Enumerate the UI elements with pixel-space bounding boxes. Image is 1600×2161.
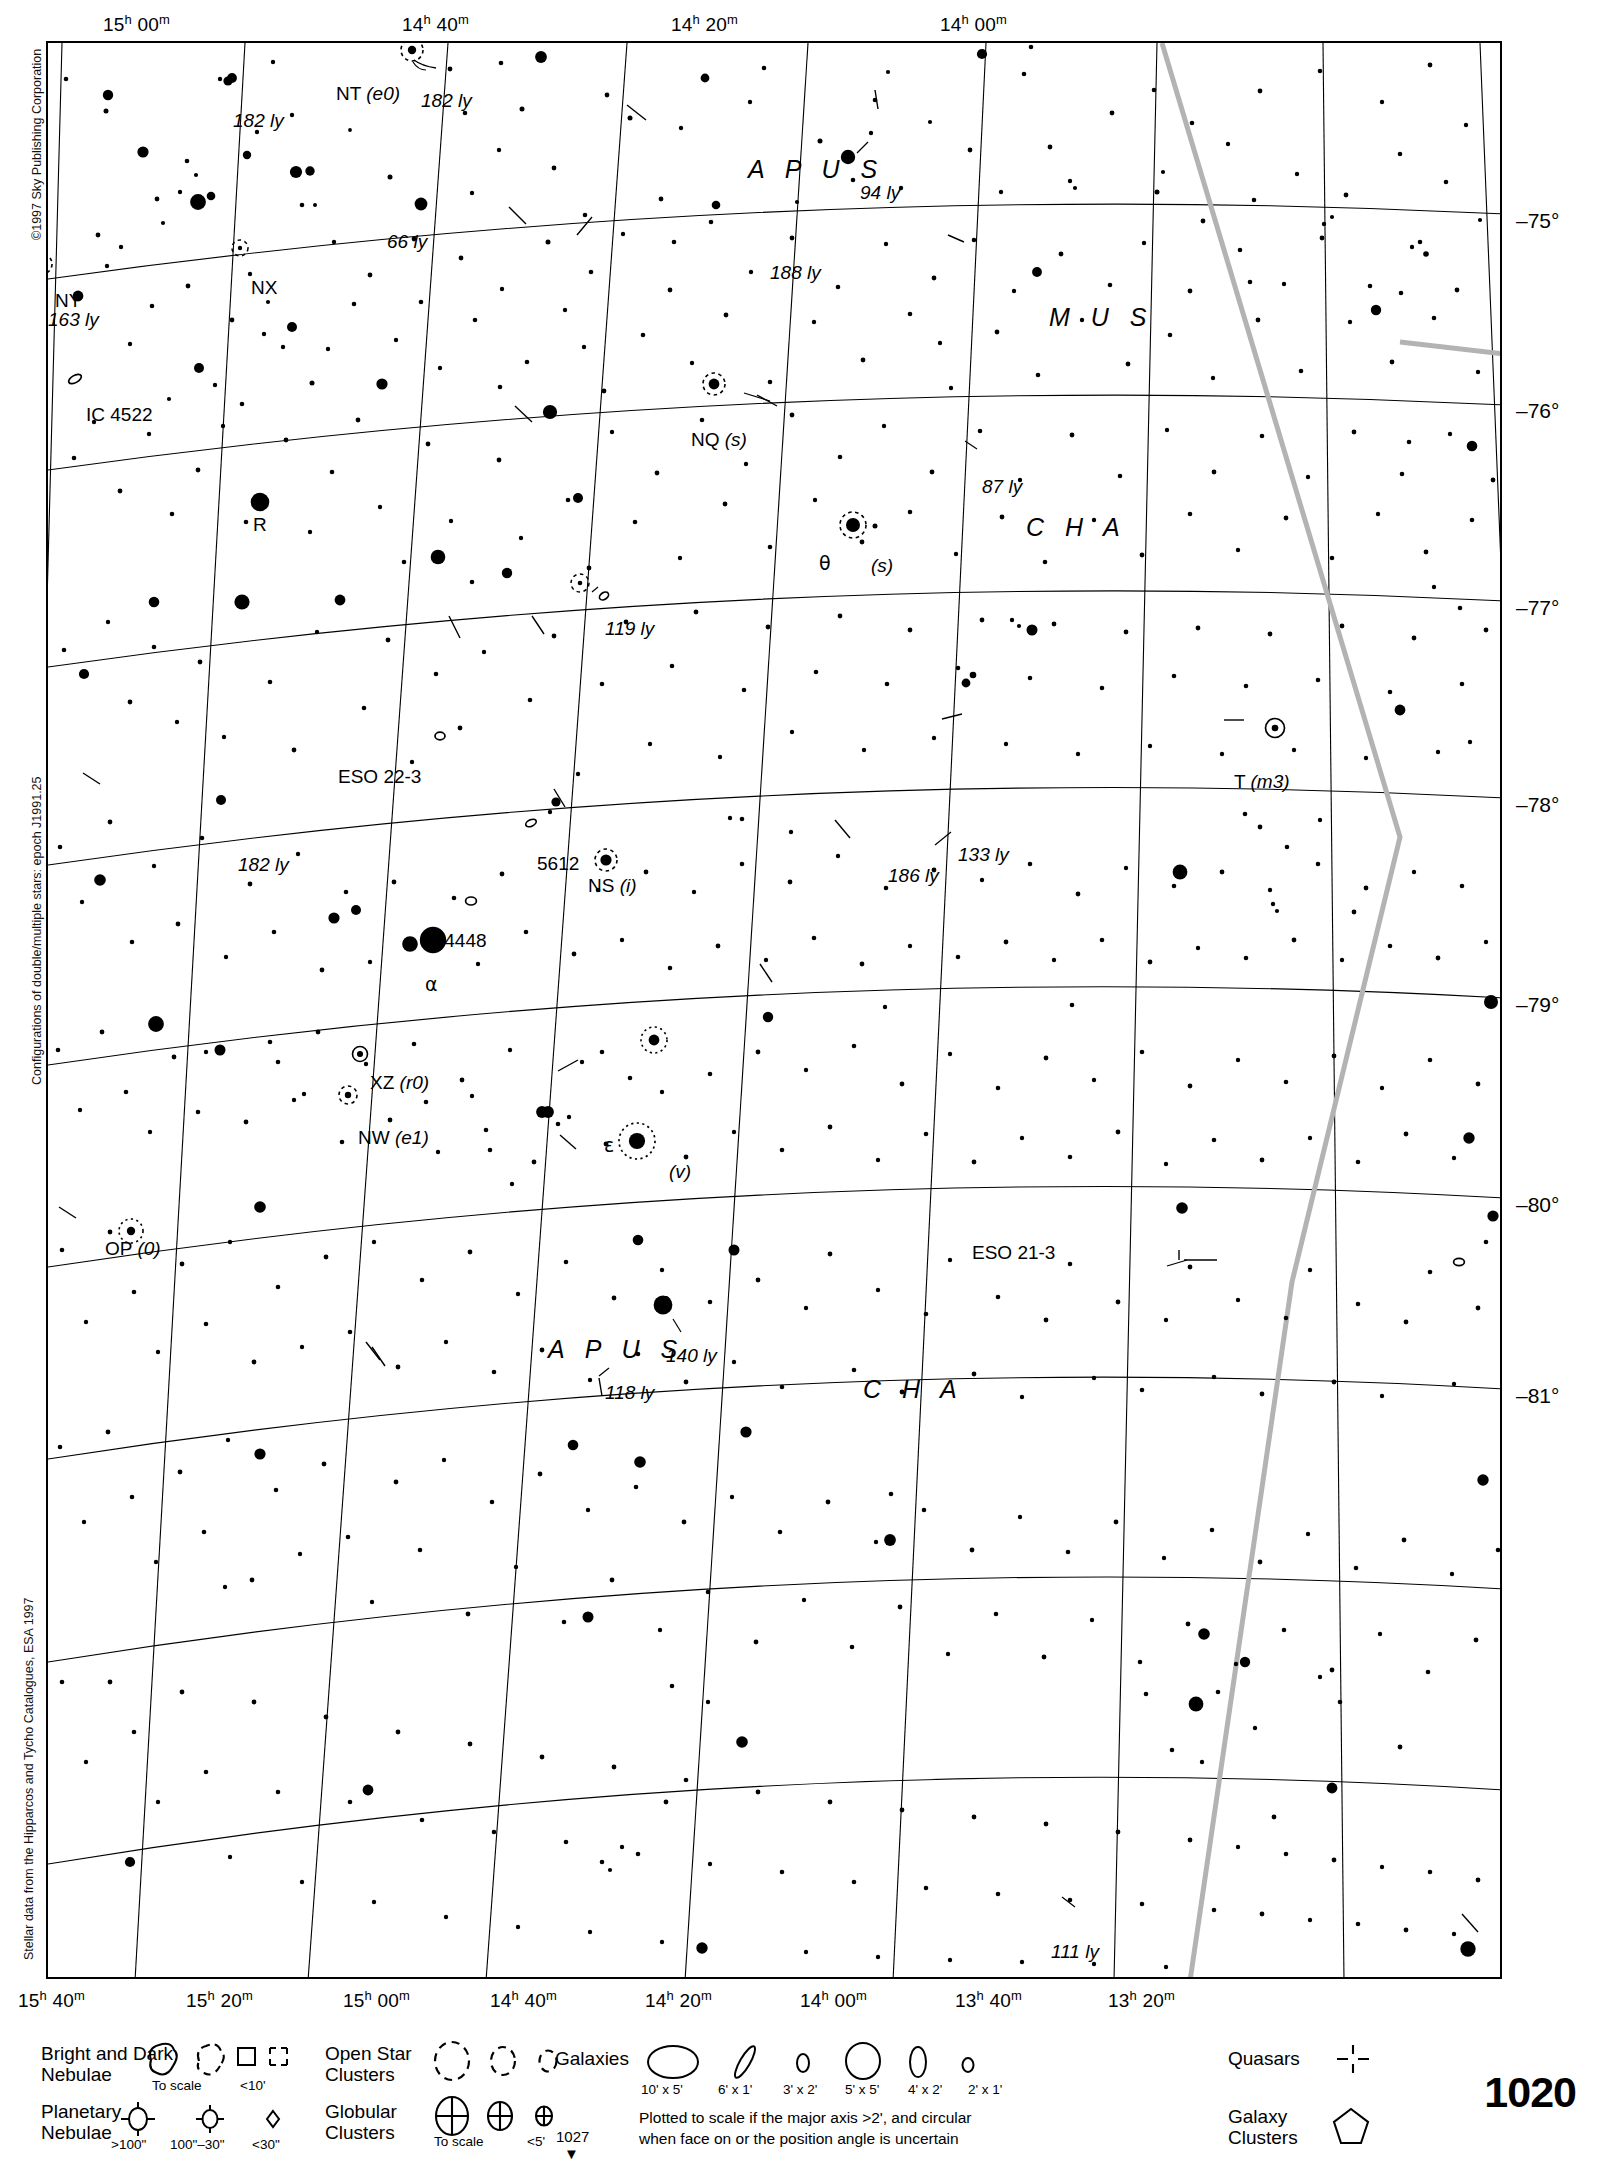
nebula-small-symbols: [236, 2045, 298, 2071]
ra-tick-bottom-8: 13h 20m: [1108, 1988, 1175, 2012]
label-op: OP (0): [105, 1239, 161, 1259]
label-theta-note: (s): [871, 556, 893, 576]
label-xz: XZ (r0): [370, 1073, 429, 1093]
label-nt: NT (e0): [336, 84, 400, 104]
star-field: [56, 45, 1501, 1970]
dec-tick-80: –80°: [1516, 1193, 1559, 1217]
stellar-data-note: Stellar data from the Hipparcos and Tych…: [22, 1598, 36, 1961]
label-nx: NX: [251, 278, 277, 298]
label-t-star: T (m3): [1234, 772, 1290, 792]
variable-star-nt: [401, 41, 436, 68]
constellation-cha-top: C H A: [1026, 513, 1127, 542]
legend-globular-clusters-label: GlobularClusters: [325, 2101, 397, 2144]
legend-galaxies-label: Galaxies: [555, 2048, 629, 2069]
quasar-symbol: [1333, 2042, 1373, 2076]
legend-planetary-size1: >100": [111, 2137, 146, 2152]
label-nq: NQ (s): [691, 430, 747, 450]
variable-star-nw: [339, 1086, 357, 1104]
legend-globular-to-scale: To scale: [434, 2134, 484, 2149]
label-182ly-top: 182 ly: [233, 111, 284, 131]
distance-leader-lines: [413, 62, 1187, 1907]
label-94ly: 94 ly: [860, 183, 900, 203]
dec-tick-81: –81°: [1516, 1384, 1559, 1408]
ra-tick-bottom-6: 14h 00m: [800, 1988, 867, 2012]
dec-tick-77: –77°: [1516, 596, 1559, 620]
legend-globular-small-size: <5': [527, 2134, 545, 2149]
constellation-cha-bottom: C H A: [863, 1375, 964, 1404]
continuation-chart-number: 1027: [556, 2128, 589, 2145]
constellation-mus: M U S: [1049, 303, 1153, 332]
configuration-note: Configurations of double/multiple stars:…: [30, 776, 44, 1085]
star-chart-page: 15h 00m 14h 40m 14h 20m 14h 00m –75° –76…: [0, 0, 1600, 2161]
dec-tick-76: –76°: [1516, 399, 1559, 423]
label-eso21-3: ESO 21-3: [972, 1243, 1055, 1263]
label-188ly: 188 ly: [770, 263, 821, 283]
label-118ly: 118 ly: [605, 1383, 654, 1403]
ra-tick-bottom-2: 15h 20m: [186, 1988, 253, 2012]
label-182ly-nt: 182 ly: [421, 91, 472, 111]
label-66ly: 66 ly: [387, 232, 427, 252]
ra-tick-top-3: 14h 20m: [671, 12, 738, 36]
page-number: 1020: [1484, 2068, 1576, 2117]
label-nw: NW (e1): [358, 1128, 429, 1148]
legend-galaxy-size-3: 5' x 5': [845, 2082, 879, 2097]
label-186ly: 186 ly: [888, 866, 939, 886]
legend-nebulae-to-scale: To scale: [152, 2078, 202, 2093]
dec-tick-78: –78°: [1516, 793, 1559, 817]
label-eso22-3: ESO 22-3: [338, 767, 421, 787]
legend-planetary-size3: <30": [252, 2137, 280, 2152]
label-ny-distance: 163 ly: [48, 310, 99, 330]
label-epsilon: ε: [604, 1136, 614, 1156]
label-133ly: 133 ly: [958, 845, 1009, 865]
ra-tick-top-4: 14h 00m: [940, 12, 1007, 36]
galaxy-symbols-legend: [645, 2040, 995, 2082]
ra-tick-top-2: 14h 40m: [402, 12, 469, 36]
label-r-star: R: [253, 515, 267, 535]
label-119ly: 119 ly: [605, 619, 654, 639]
sky-map-canvas: [46, 41, 1502, 1979]
sky-map[interactable]: NT (e0) 182 ly 182 ly 94 ly 66 ly 188 ly…: [46, 41, 1502, 1979]
label-eta: η: [659, 1291, 671, 1311]
label-theta: θ: [819, 554, 831, 574]
legend-galaxy-clusters-label: GalaxyClusters: [1228, 2106, 1298, 2149]
dec-tick-79: –79°: [1516, 993, 1559, 1017]
label-alpha: α: [425, 975, 438, 995]
legend-galaxy-note: Plotted to scale if the major axis >2', …: [639, 2108, 972, 2150]
ra-tick-top-1: 15h 00m: [103, 12, 170, 36]
ra-tick-bottom-4: 14h 40m: [490, 1988, 557, 2012]
label-epsilon-note: (v): [669, 1162, 691, 1182]
ra-tick-bottom-5: 14h 20m: [645, 1988, 712, 2012]
map-legend: Bright and DarkNebulae To scale <10' Pla…: [0, 2028, 1600, 2161]
constellation-apus-bottom: A P U S: [548, 1335, 684, 1364]
planetary-nebula-symbols: [115, 2098, 315, 2140]
label-ns: NS (i): [588, 876, 637, 896]
label-ic4522: IC 4522: [86, 405, 153, 425]
double-star-config-marks: [59, 90, 1478, 1932]
galaxy-cluster-symbol: [1330, 2106, 1380, 2148]
legend-galaxy-size-4: 4' x 2': [908, 2082, 942, 2097]
ra-tick-bottom-1: 15h 40m: [18, 1988, 85, 2012]
ra-tick-bottom-3: 15h 00m: [343, 1988, 410, 2012]
dec-tick-75: –75°: [1516, 209, 1559, 233]
label-ic4448: IC 4448: [420, 931, 487, 951]
ra-tick-bottom-7: 13h 40m: [955, 1988, 1022, 2012]
legend-galaxy-size-2: 3' x 2': [783, 2082, 817, 2097]
label-111ly: 111 ly: [1051, 1942, 1099, 1962]
continuation-arrow-icon: ▼: [564, 2146, 579, 2161]
copyright-notice: ©1997 Sky Publishing Corporation: [30, 49, 44, 240]
legend-nebulae-small-size: <10': [240, 2078, 265, 2093]
label-ngc5612: 5612: [537, 854, 579, 874]
legend-galaxy-size-1: 6' x 1': [718, 2082, 752, 2097]
legend-planetary-label: PlanetaryNebulae: [41, 2101, 121, 2144]
label-182ly-left: 182 ly: [238, 855, 289, 875]
label-ny: NY: [55, 291, 81, 311]
legend-galaxy-size-0: 10' x 5': [641, 2082, 683, 2097]
legend-quasars-label: Quasars: [1228, 2048, 1300, 2069]
galaxy-symbols: [67, 372, 1464, 1265]
legend-galaxy-size-5: 2' x 1': [968, 2082, 1002, 2097]
variable-star-t: [1266, 719, 1285, 738]
variable-star-xz: [353, 1047, 368, 1062]
label-87ly: 87 ly: [982, 477, 1022, 497]
legend-open-clusters-label: Open StarClusters: [325, 2043, 412, 2086]
legend-planetary-size2: 100"–30": [170, 2137, 225, 2152]
